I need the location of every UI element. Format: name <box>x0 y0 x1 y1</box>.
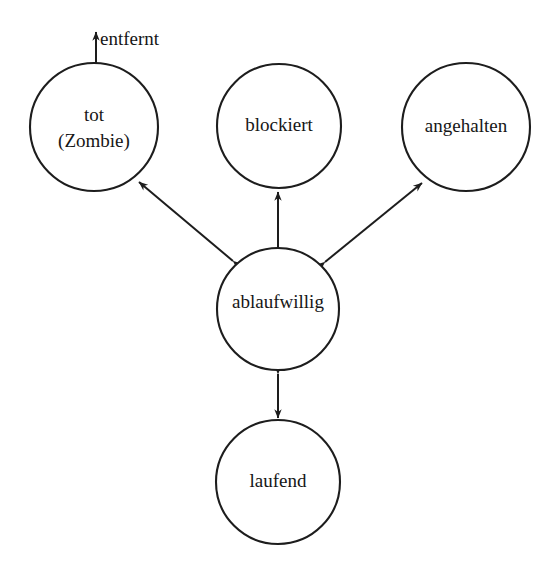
transition-ablaufwillig-tot <box>139 182 233 261</box>
transition-tot-entfernt: entfernt <box>96 28 160 64</box>
state-label-tot-line2: (Zombie) <box>58 130 130 152</box>
transition-ablaufwillig-angehalten <box>325 183 422 262</box>
state-node-laufend[interactable]: laufend <box>216 420 340 544</box>
transition-ablaufwillig-tot-line <box>139 182 233 261</box>
state-node-ablaufwillig[interactable]: ablaufwillig <box>217 248 339 370</box>
state-node-tot[interactable]: tot (Zombie) <box>30 63 158 191</box>
state-label-blockiert: blockiert <box>245 114 313 135</box>
state-label-laufend: laufend <box>250 470 307 491</box>
transition-ablaufwillig-angehalten-line <box>325 183 422 262</box>
state-node-blockiert[interactable]: blockiert <box>217 64 341 188</box>
state-label-ablaufwillig: ablaufwillig <box>232 291 324 312</box>
state-diagram-canvas: entfernt tot (Zombie) blockiert angehalt… <box>0 0 557 571</box>
state-node-angehalten[interactable]: angehalten <box>402 63 530 191</box>
transition-label-entfernt: entfernt <box>100 28 160 49</box>
state-label-tot-line1: tot <box>84 104 105 125</box>
state-diagram: entfernt tot (Zombie) blockiert angehalt… <box>0 0 557 571</box>
state-label-angehalten: angehalten <box>425 115 508 136</box>
state-circle-tot[interactable] <box>30 63 158 191</box>
